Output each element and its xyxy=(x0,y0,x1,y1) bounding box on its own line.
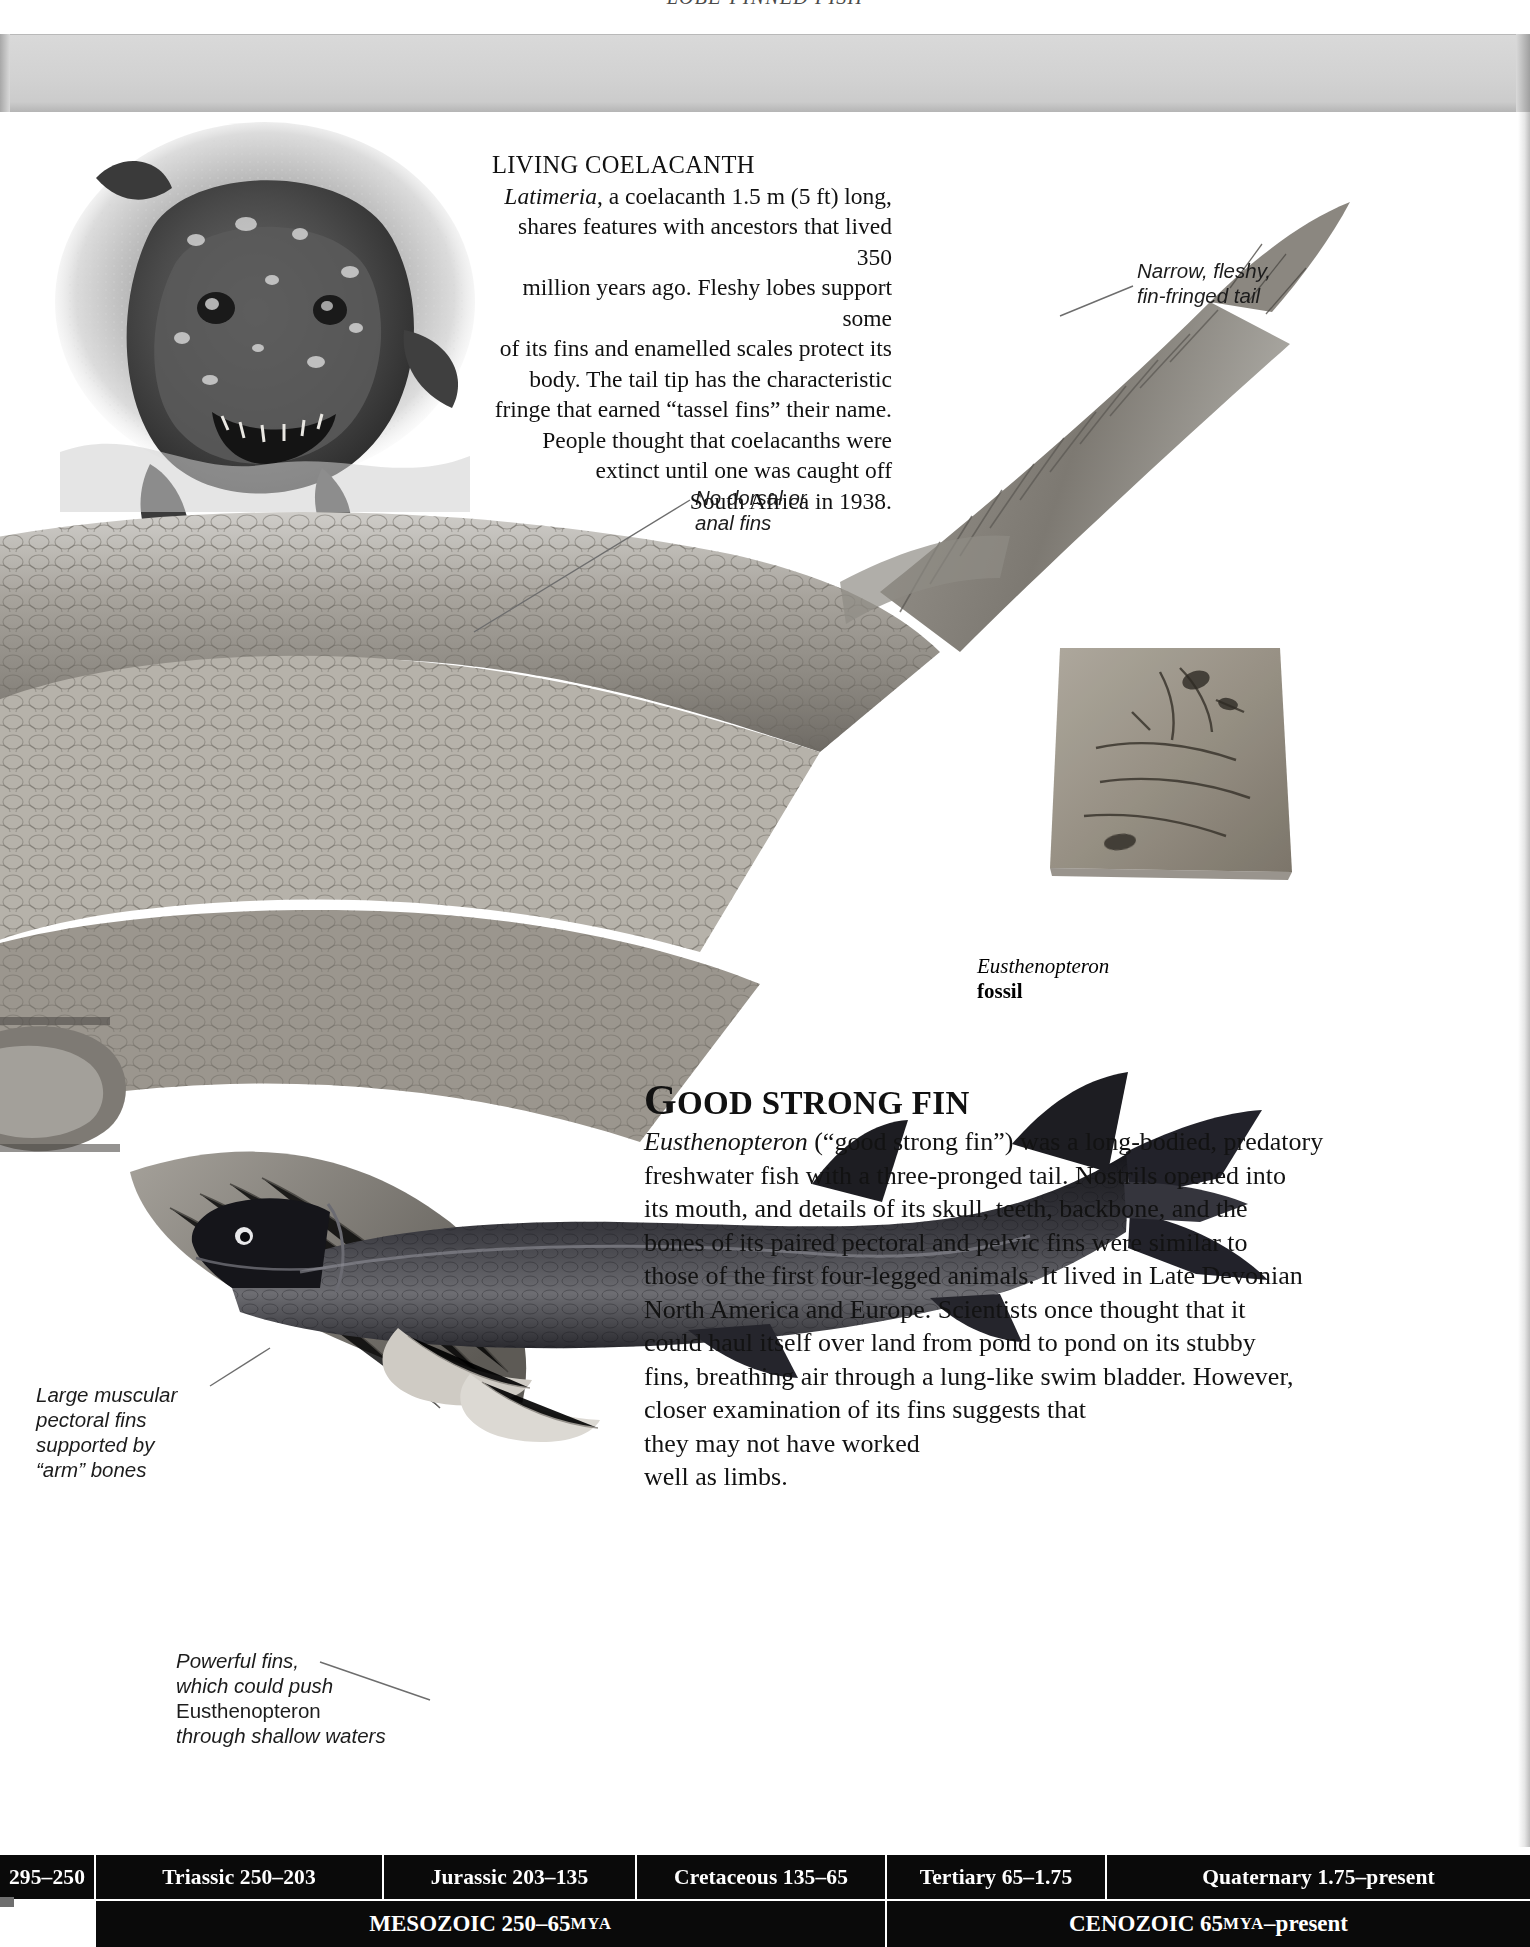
coelacanth-line-4: body. The tail tip has the characteristi… xyxy=(492,364,892,395)
timeline-period-2: Jurassic 203–135 xyxy=(384,1855,637,1899)
genus-eusthenopteron: Eusthenopteron xyxy=(644,1127,808,1156)
callout-powerful-fins-line-2: Eusthenopteron xyxy=(176,1699,321,1722)
gsf-line-5: North America and Europe. Scientists onc… xyxy=(644,1293,1434,1327)
callout-no-fins-line-1: anal fins xyxy=(695,511,771,534)
timeline-era-1: CENOZOIC 65 MYA–present xyxy=(887,1901,1530,1947)
heading-word-3: FIN xyxy=(912,1085,970,1121)
callout-no-fins-line-0: No dorsal or xyxy=(695,486,807,509)
gsf-line-10: well as limbs. xyxy=(644,1460,1434,1494)
geological-timeline: 295–250Triassic 250–203Jurassic 203–135C… xyxy=(0,1855,1530,1947)
timeline-era-0: MESOZOIC 250–65 MYA xyxy=(96,1901,887,1947)
timeline-period-4: Tertiary 65–1.75 xyxy=(887,1855,1107,1899)
good-strong-fin-section: GOOD STRONG FIN Eusthenopteron (“good st… xyxy=(644,1080,1434,1494)
gsf-line-9: they may not have worked xyxy=(644,1427,1434,1461)
gsf-line-8: closer examination of its fins suggests … xyxy=(644,1393,1434,1427)
callout-powerful-fins: Powerful fins, which could push Eustheno… xyxy=(176,1648,436,1748)
living-coelacanth-body: Latimeria, a coelacanth 1.5 m (5 ft) lon… xyxy=(492,181,892,517)
callout-pectoral-fins: Large muscular pectoral fins supported b… xyxy=(36,1382,256,1482)
coelacanth-line-5: fringe that earned “tassel fins” their n… xyxy=(492,394,892,425)
gsf-line-4: those of the first four-legged animals. … xyxy=(644,1259,1434,1293)
timeline-periods-row: 295–250Triassic 250–203Jurassic 203–135C… xyxy=(0,1855,1530,1899)
timeline-period-0: 295–250 xyxy=(0,1855,96,1899)
fossil-caption: Eusthenopteron fossil xyxy=(977,954,1207,1004)
callout-powerful-fins-line-0: Powerful fins, xyxy=(176,1649,299,1672)
gsf-line-6: could haul itself over land from pond to… xyxy=(644,1326,1434,1360)
gsf-line-7: fins, breathing air through a lung-like … xyxy=(644,1360,1434,1394)
callout-tail: Narrow, fleshy, fin-fringed tail xyxy=(1137,258,1337,308)
callout-pectoral-line-3: “arm” bones xyxy=(36,1458,147,1481)
coelacanth-line-2: million years ago. Fleshy lobes support … xyxy=(492,272,892,333)
genus-latimeria: Latimeria xyxy=(504,183,597,209)
timeline-period-1: Triassic 250–203 xyxy=(96,1855,384,1899)
coelacanth-line-1: shares features with ancestors that live… xyxy=(492,211,892,272)
callout-pectoral-line-1: pectoral fins xyxy=(36,1408,147,1431)
callout-tail-line-0: Narrow, fleshy, xyxy=(1137,259,1271,282)
page-spread: LOBE-FINNED FISH xyxy=(0,0,1530,1947)
callout-tail-line-1: fin-fringed tail xyxy=(1137,284,1260,307)
gsf-line-1: freshwater fish with a three-pronged tai… xyxy=(644,1159,1434,1193)
gsf-line-0: (“good strong fin”) was a long-bodied, p… xyxy=(808,1127,1324,1156)
gsf-line-2: its mouth, and details of its skull, tee… xyxy=(644,1192,1434,1226)
callout-pectoral-line-2: supported by xyxy=(36,1433,155,1456)
callout-pectoral-line-0: Large muscular xyxy=(36,1383,177,1406)
timeline-period-3: Cretaceous 135–65 xyxy=(637,1855,887,1899)
coelacanth-line-0: , a coelacanth 1.5 m (5 ft) long, xyxy=(597,183,892,209)
heading-drop-cap: G xyxy=(644,1077,677,1123)
heading-word-1: OOD xyxy=(677,1085,753,1121)
callout-powerful-fins-line-1: which could push xyxy=(176,1674,333,1697)
coelacanth-line-3: of its fins and enamelled scales protect… xyxy=(492,333,892,364)
good-strong-fin-heading: GOOD STRONG FIN xyxy=(644,1080,1434,1123)
coelacanth-line-6: People thought that coelacanths were xyxy=(492,425,892,456)
callout-no-fins: No dorsal or anal fins xyxy=(695,485,885,535)
coelacanth-line-7: extinct until one was caught off xyxy=(492,455,892,486)
living-coelacanth-text: LIVING COELACANTH Latimeria, a coelacant… xyxy=(492,150,892,516)
timeline-era-spacer xyxy=(0,1901,96,1947)
fossil-caption-genus: Eusthenopteron xyxy=(977,954,1207,979)
living-coelacanth-title: LIVING COELACANTH xyxy=(492,150,892,181)
good-strong-fin-body: Eusthenopteron (“good strong fin”) was a… xyxy=(644,1125,1434,1494)
timeline-eras-row: MESOZOIC 250–65 MYACENOZOIC 65 MYA–prese… xyxy=(0,1901,1530,1947)
heading-word-2: STRONG xyxy=(762,1085,903,1121)
timeline-period-5: Quaternary 1.75–present xyxy=(1107,1855,1530,1899)
gsf-line-3: bones of its paired pectoral and pelvic … xyxy=(644,1226,1434,1260)
fossil-caption-word: fossil xyxy=(977,979,1207,1004)
timeline-tab-marker xyxy=(0,1897,14,1907)
callout-powerful-fins-line-3: through shallow waters xyxy=(176,1724,386,1747)
